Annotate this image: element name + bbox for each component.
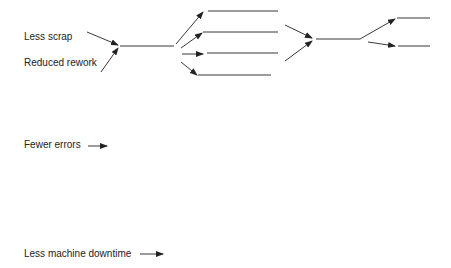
arrow-to-junction-2-bottom (285, 41, 312, 61)
label-less-machine-downtime: Less machine downtime (24, 248, 131, 260)
arrow-reduced-rework (101, 48, 118, 72)
arrow-branch-6 (368, 42, 395, 46)
arrow-branch-5 (360, 19, 395, 39)
label-reduced-rework: Reduced rework (24, 57, 97, 69)
arrow-branch-2 (181, 33, 202, 48)
arrow-branch-4 (181, 62, 197, 75)
arrow-to-junction-2-top (285, 25, 312, 38)
label-less-scrap: Less scrap (24, 31, 72, 43)
label-fewer-errors: Fewer errors (24, 139, 81, 151)
arrow-less-scrap (87, 32, 118, 45)
arrow-branch-1 (176, 12, 203, 44)
